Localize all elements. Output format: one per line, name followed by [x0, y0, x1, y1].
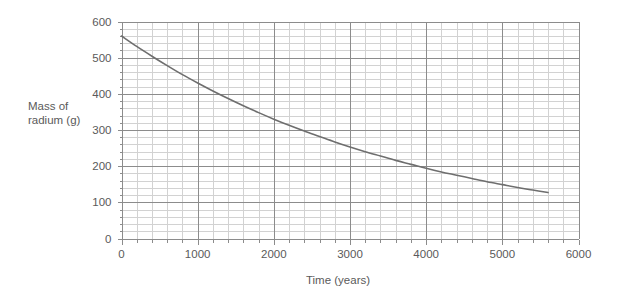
x-tick-label: 1000: [185, 248, 211, 260]
y-tick-label: 0: [105, 233, 111, 245]
x-axis-title: Time (years): [306, 274, 370, 286]
data-series-layer: [122, 36, 549, 193]
x-tick-label: 6000: [566, 248, 592, 260]
y-tick-label: 100: [92, 196, 111, 208]
x-axis-tick-marks: [123, 240, 580, 245]
decay-curve: [122, 36, 549, 193]
x-tick-label: 3000: [337, 248, 363, 260]
radium-decay-chart: 0100020003000400050006000 01002003004005…: [0, 0, 618, 300]
y-axis-title-line-1: Mass of: [28, 100, 69, 112]
y-axis-tick-labels: 0100200300400500600: [92, 16, 111, 245]
chart-figure: 0100020003000400050006000 01002003004005…: [0, 0, 618, 300]
x-tick-label: 4000: [413, 248, 439, 260]
y-tick-label: 400: [92, 88, 111, 100]
y-axis-tick-marks: [118, 23, 123, 240]
y-tick-label: 500: [92, 52, 111, 64]
x-tick-label: 2000: [261, 248, 287, 260]
x-tick-label: 0: [118, 248, 124, 260]
y-tick-label: 200: [92, 160, 111, 172]
y-tick-label: 600: [92, 16, 111, 28]
y-tick-label: 300: [92, 124, 111, 136]
x-tick-label: 5000: [490, 248, 516, 260]
x-axis-tick-labels: 0100020003000400050006000: [118, 248, 591, 260]
y-axis-title-line-2: radium (g): [28, 114, 81, 126]
